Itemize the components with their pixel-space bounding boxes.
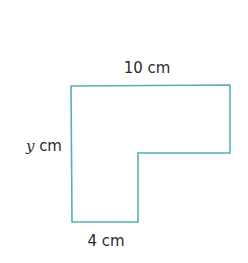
left-length-label: y cm (25, 137, 62, 155)
bottom-length-label: 4 cm (87, 232, 124, 250)
diagram-canvas: 10 cm y cm 4 cm (0, 0, 248, 263)
top-length-label: 10 cm (124, 59, 171, 77)
left-unit: cm (34, 137, 62, 155)
l-shape-outline (71, 85, 230, 222)
